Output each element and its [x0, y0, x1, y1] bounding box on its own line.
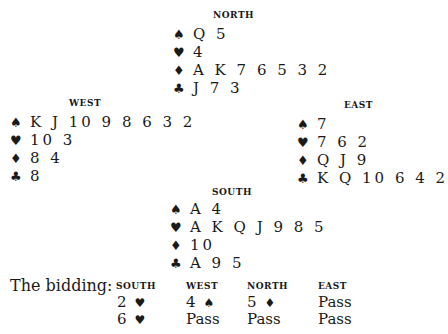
diamond-icon: ♦ — [173, 62, 193, 80]
bid-west-2: Pass — [186, 310, 220, 328]
club-icon: ♣ — [297, 170, 317, 188]
south-title: SOUTH — [212, 187, 252, 197]
club-icon: ♣ — [10, 168, 30, 186]
heart-icon: ♥ — [173, 44, 193, 62]
bid-header-north: NORTH — [247, 281, 288, 291]
east-spades: ♠7 — [297, 115, 330, 134]
bid-north-2: Pass — [247, 310, 281, 328]
club-icon: ♣ — [173, 80, 193, 98]
north-diamonds: ♦A K 7 6 5 3 2 — [173, 61, 330, 80]
spade-icon: ♠ — [170, 201, 190, 219]
west-spades: ♠K J 10 9 8 6 3 2 — [10, 113, 195, 132]
spade-icon: ♠ — [173, 26, 193, 44]
west-hearts: ♥10 3 — [10, 131, 75, 150]
east-diamonds: ♦Q J 9 — [297, 151, 369, 170]
south-diamonds: ♦10 — [170, 236, 215, 255]
heart-icon: ♥ — [135, 313, 146, 327]
heart-icon: ♥ — [135, 296, 146, 310]
bidding-label: The bidding: — [10, 276, 112, 295]
diamond-icon: ♦ — [170, 237, 190, 255]
diamond-icon: ♦ — [265, 296, 276, 310]
south-hearts: ♥A K Q J 9 8 5 — [170, 218, 327, 237]
north-clubs: ♣J 7 3 — [173, 79, 243, 98]
diamond-icon: ♦ — [10, 150, 30, 168]
north-spades: ♠Q 5 — [173, 25, 229, 44]
north-title: NORTH — [213, 10, 254, 20]
bid-header-west: WEST — [186, 281, 218, 291]
west-diamonds: ♦8 4 — [10, 149, 63, 168]
east-hearts: ♥7 6 2 — [297, 133, 370, 152]
bid-east-2: Pass — [318, 310, 352, 328]
heart-icon: ♥ — [170, 219, 190, 237]
west-clubs: ♣8 — [10, 167, 43, 186]
spade-icon: ♠ — [10, 114, 30, 132]
bid-north-1: 5♦ — [247, 293, 275, 311]
heart-icon: ♥ — [297, 134, 317, 152]
bid-west-1: 4♠ — [186, 293, 214, 311]
bid-south-1: 2♥ — [117, 293, 145, 311]
bid-header-south: SOUTH — [116, 281, 156, 291]
east-title: EAST — [344, 100, 373, 110]
south-spades: ♠A 4 — [170, 200, 224, 219]
west-title: WEST — [69, 98, 101, 108]
heart-icon: ♥ — [10, 132, 30, 150]
bid-header-east: EAST — [318, 281, 347, 291]
east-clubs: ♣K Q 10 6 4 2 — [297, 169, 448, 188]
bid-east-1: Pass — [318, 293, 352, 311]
north-hearts: ♥4 — [173, 43, 206, 62]
south-clubs: ♣A 9 5 — [170, 254, 244, 273]
bid-south-2: 6♥ — [117, 310, 145, 328]
spade-icon: ♠ — [204, 296, 215, 310]
club-icon: ♣ — [170, 255, 190, 273]
diamond-icon: ♦ — [297, 152, 317, 170]
spade-icon: ♠ — [297, 116, 317, 134]
